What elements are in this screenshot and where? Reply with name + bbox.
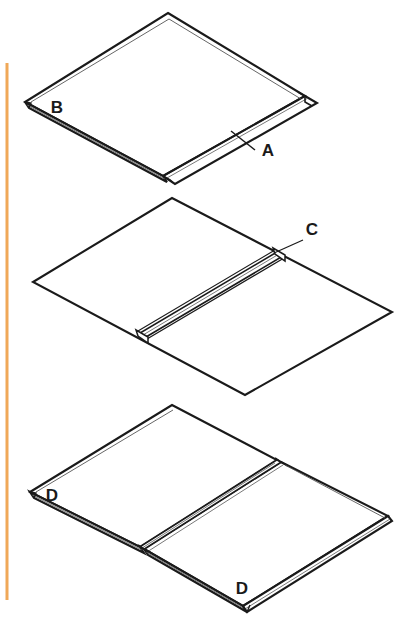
callout-a-label: A	[262, 141, 274, 160]
callout-c-label: C	[306, 220, 318, 239]
figure-bottom: D D	[30, 405, 392, 612]
diagram-page: A B C	[0, 0, 412, 633]
figure-middle: C	[33, 198, 392, 395]
callout-d-bottom-label: D	[236, 579, 248, 598]
callout-b-label: B	[51, 98, 63, 117]
callout-d-left-label: D	[46, 486, 58, 505]
figure-top: A B	[25, 13, 317, 184]
callout-c-leader	[274, 240, 303, 253]
panel-assembly-diagram: A B C	[0, 0, 412, 633]
